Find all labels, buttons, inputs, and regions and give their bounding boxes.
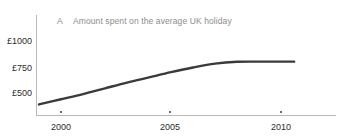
chart-container: A Amount spent on the average UK holiday… [0,0,338,140]
series-line-holiday-spend [39,62,294,105]
data-line-plot [0,0,338,140]
